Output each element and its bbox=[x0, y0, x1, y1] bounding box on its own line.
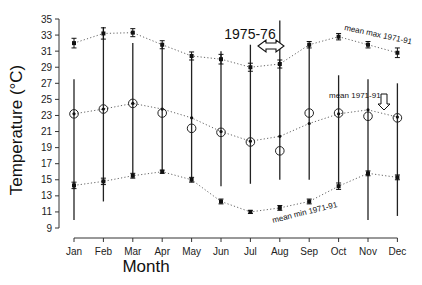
mean-point bbox=[131, 102, 134, 105]
annotation-1975-76: 1975-76 bbox=[224, 26, 276, 42]
y-tick-label: 21 bbox=[41, 126, 53, 137]
annotation-mean-min: mean min 1971-91 bbox=[271, 200, 338, 225]
data-point bbox=[131, 31, 135, 35]
x-tick-label: Apr bbox=[154, 246, 170, 257]
data-point bbox=[190, 178, 194, 182]
y-tick-label: 23 bbox=[41, 110, 53, 121]
y-tick-label: 33 bbox=[41, 30, 53, 41]
data-point bbox=[307, 43, 311, 47]
x-tick-label: Dec bbox=[389, 246, 407, 257]
data-point bbox=[248, 210, 252, 214]
mean-point bbox=[190, 116, 193, 119]
data-point bbox=[278, 206, 282, 210]
data-point bbox=[72, 41, 76, 45]
temperature-chart: 911131517192123252729313335 JanFebMarApr… bbox=[0, 0, 422, 285]
y-tick-label: 27 bbox=[41, 78, 53, 89]
y-tick-label: 17 bbox=[41, 158, 53, 169]
annotation-mean-max: mean max 1971-91 bbox=[344, 23, 414, 46]
y-tick-label: 25 bbox=[41, 94, 53, 105]
y-axis-label: Temperature (°C) bbox=[7, 65, 26, 196]
x-tick-label: Jun bbox=[213, 246, 229, 257]
data-point bbox=[101, 179, 105, 183]
y-tick-label: 31 bbox=[41, 46, 53, 57]
data-point bbox=[219, 57, 223, 61]
x-tick-label: Aug bbox=[271, 246, 289, 257]
y-tick-label: 19 bbox=[41, 142, 53, 153]
mean-point bbox=[337, 112, 340, 115]
mean-point bbox=[219, 130, 222, 133]
y-tick-label: 29 bbox=[41, 62, 53, 73]
x-axis-label: Month bbox=[122, 257, 169, 276]
data-point bbox=[101, 31, 105, 35]
data-point bbox=[190, 54, 194, 58]
mean-point bbox=[396, 115, 399, 118]
data-point bbox=[337, 184, 341, 188]
x-tick-label: May bbox=[182, 246, 201, 257]
mean-point bbox=[249, 140, 252, 143]
data-point bbox=[307, 199, 311, 203]
x-axis: JanFebMarAprMayJunJulAugSepOctNovDec bbox=[66, 238, 406, 257]
data-point bbox=[219, 199, 223, 203]
data-point bbox=[160, 170, 164, 174]
data-point bbox=[366, 43, 370, 47]
annotation-mean: mean 1971-91 bbox=[329, 91, 381, 100]
x-tick-label: Nov bbox=[359, 246, 377, 257]
y-tick-label: 9 bbox=[46, 223, 52, 234]
data-point bbox=[131, 174, 135, 178]
data-point bbox=[337, 35, 341, 39]
data-point bbox=[395, 51, 399, 55]
plot-area bbox=[70, 21, 402, 220]
data-point bbox=[248, 65, 252, 69]
mean-point bbox=[308, 122, 311, 125]
x-tick-label: Jan bbox=[66, 246, 82, 257]
data-point bbox=[278, 62, 282, 66]
data-point bbox=[72, 183, 76, 187]
x-tick-label: Sep bbox=[300, 246, 318, 257]
y-tick-label: 11 bbox=[42, 206, 53, 217]
mean-point bbox=[72, 112, 75, 115]
y-tick-label: 13 bbox=[41, 190, 53, 201]
data-point bbox=[160, 43, 164, 47]
mean-point bbox=[102, 107, 105, 110]
mean-point bbox=[278, 135, 281, 138]
data-point bbox=[366, 171, 370, 175]
y-axis: 911131517192123252729313335 bbox=[41, 14, 59, 234]
y-tick-label: 35 bbox=[41, 14, 53, 25]
data-point bbox=[395, 175, 399, 179]
y-tick-label: 15 bbox=[41, 174, 53, 185]
mean-point bbox=[366, 108, 369, 111]
x-tick-label: Mar bbox=[124, 246, 142, 257]
x-tick-label: Jul bbox=[244, 246, 257, 257]
x-tick-label: Feb bbox=[95, 246, 113, 257]
x-tick-label: Oct bbox=[331, 246, 347, 257]
